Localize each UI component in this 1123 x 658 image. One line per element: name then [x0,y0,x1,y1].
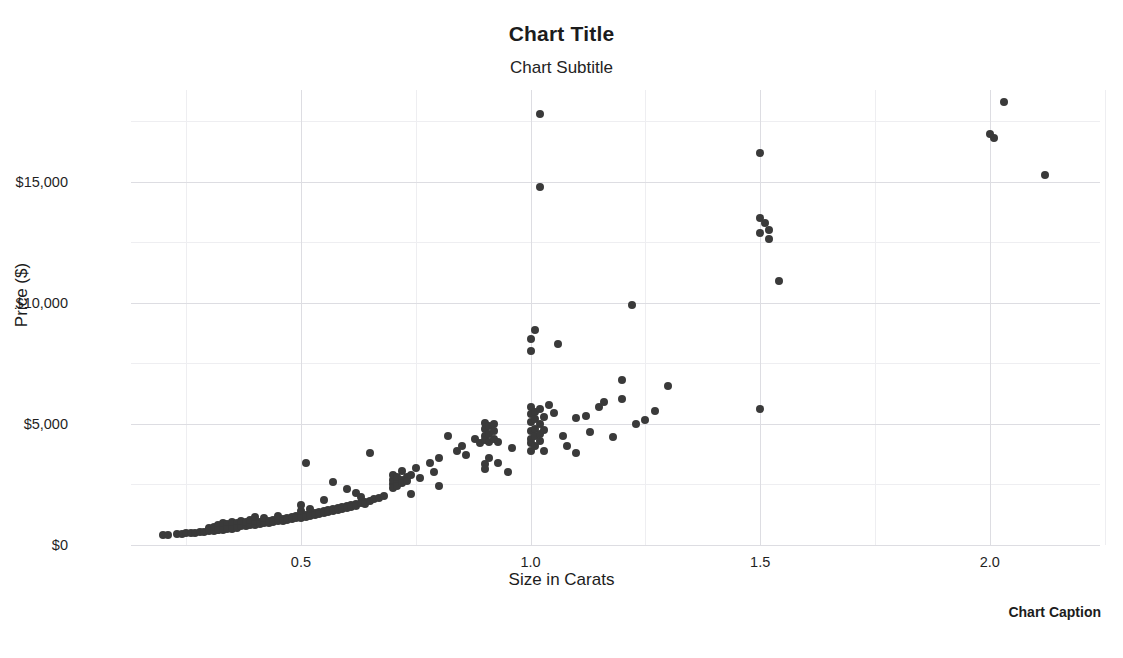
gridline-vertical-minor [186,90,187,545]
scatter-point [756,229,764,237]
scatter-point [632,420,640,428]
scatter-point [664,382,672,390]
scatter-point [416,474,424,482]
scatter-point [504,468,512,476]
scatter-point [435,454,443,462]
gridline-vertical-minor [1105,90,1106,545]
gridline-horizontal-minor [131,363,1100,364]
scatter-point [508,444,516,452]
gridline-horizontal-minor [131,242,1100,243]
scatter-point [609,433,617,441]
scatter-point [407,471,415,479]
scatter-point [756,149,764,157]
scatter-point [1041,171,1049,179]
plot-panel: $0$5,000$10,000$15,0000.51.01.52.0 [131,90,1100,545]
x-axis-tick-label: 1.5 [750,554,770,570]
scatter-point [536,183,544,191]
scatter-point [380,492,388,500]
y-axis-tick-label: $0 [52,537,68,553]
gridline-vertical-major [990,90,991,545]
scatter-point [494,438,502,446]
scatter-point [628,301,636,309]
gridline-horizontal-major [131,424,1100,425]
scatter-point [343,485,351,493]
scatter-point [756,405,764,413]
scatter-point [618,395,626,403]
scatter-point [536,110,544,118]
scatter-point [540,413,548,421]
scatter-point [366,449,374,457]
scatter-point [563,442,571,450]
scatter-point [582,412,590,420]
scatter-point [458,442,466,450]
y-axis-tick-label: $5,000 [24,416,68,432]
scatter-point [618,376,626,384]
gridline-vertical-major [301,90,302,545]
scatter-point [435,482,443,490]
scatter-point [572,449,580,457]
scatter-point [444,432,452,440]
x-axis-tick-label: 0.5 [291,554,311,570]
scatter-point [651,407,659,415]
x-axis-tick-label: 2.0 [980,554,1000,570]
gridline-horizontal-minor [131,484,1100,485]
scatter-point [554,340,562,348]
scatter-point [531,326,539,334]
scatter-point [550,409,558,417]
scatter-point [775,277,783,285]
scatter-point [302,459,310,467]
scatter-point [540,426,548,434]
scatter-point [485,454,493,462]
gridline-horizontal-major [131,303,1100,304]
scatter-point [600,398,608,406]
scatter-point [426,459,434,467]
scatter-point [297,501,305,509]
chart-caption: Chart Caption [1008,604,1101,620]
chart-title: Chart Title [0,22,1123,46]
y-axis-tick-label: $15,000 [16,174,68,190]
scatter-point [320,496,328,504]
gridline-horizontal-major [131,545,1100,546]
scatter-point [494,459,502,467]
scatter-point [572,414,580,422]
y-axis-tick-label: $10,000 [16,295,68,311]
scatter-point [536,437,544,445]
scatter-point [462,451,470,459]
scatter-point [545,401,553,409]
scatter-chart: Chart Title Chart Subtitle Price ($) Siz… [0,0,1123,658]
scatter-point [1000,98,1008,106]
scatter-point [586,428,594,436]
scatter-point [559,432,567,440]
gridline-horizontal-major [131,182,1100,183]
scatter-point [481,465,489,473]
scatter-point [527,335,535,343]
scatter-point [430,468,438,476]
scatter-point [407,490,415,498]
gridline-horizontal-minor [131,121,1100,122]
scatter-point [765,226,773,234]
gridline-vertical-minor [875,90,876,545]
scatter-point [412,464,420,472]
scatter-point [540,447,548,455]
gridline-vertical-major [531,90,532,545]
x-axis-title: Size in Carats [0,570,1123,590]
scatter-point [990,134,998,142]
gridline-vertical-minor [645,90,646,545]
scatter-point [490,420,498,428]
chart-subtitle: Chart Subtitle [0,58,1123,78]
gridline-vertical-major [760,90,761,545]
scatter-point [527,347,535,355]
scatter-point [164,531,172,539]
x-axis-tick-label: 1.0 [520,554,540,570]
